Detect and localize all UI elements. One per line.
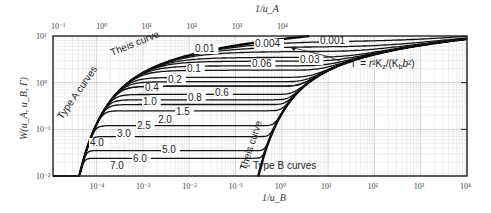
- top-axis-title: 1/u_A: [255, 3, 280, 14]
- curve-label: 1.0: [143, 96, 157, 107]
- curve-label: 2.5: [137, 120, 151, 131]
- curve-label: 0.1: [187, 63, 201, 74]
- curve-label: 4.0: [90, 137, 104, 148]
- type-a-label: Type A curves: [55, 64, 100, 121]
- curve-label: 3.0: [117, 128, 131, 139]
- bottom-tick-label: 10¹: [321, 182, 332, 191]
- bottom-tick-label: 10⁻⁴: [90, 182, 105, 191]
- bottom-tick-label: 10⁻²: [182, 182, 197, 191]
- y-tick-label: 10⁻²: [36, 172, 51, 181]
- bottom-tick-label: 10⁻¹: [229, 182, 244, 191]
- curve-label: 0.8: [188, 92, 202, 103]
- curve-label: 6.0: [133, 153, 147, 164]
- bottom-tick-label: 10⁰: [275, 182, 286, 191]
- curve-label: 0.01: [195, 43, 215, 54]
- curve-label: 1.5: [176, 106, 190, 117]
- type-b-label: Type B curves: [253, 160, 316, 171]
- curve-label: 0.6: [215, 87, 229, 98]
- curve-label: 0.4: [145, 82, 159, 93]
- bottom-tick-label: 10⁻³: [136, 182, 151, 191]
- curve-label: 0.004: [255, 38, 280, 49]
- y-tick-label: 10¹: [36, 32, 47, 41]
- bottom-tick-label: 10²: [367, 182, 378, 191]
- curve-label: 2.0: [158, 114, 172, 125]
- top-tick-label: 10³: [232, 22, 243, 31]
- gamma-definition: Γ = r²Kz/(Kbb²): [352, 58, 415, 70]
- top-tick-label: 10⁴: [277, 22, 288, 31]
- curve-label: 0.06: [252, 58, 272, 69]
- y-axis-title: W(u_A, u_B, Γ): [18, 76, 30, 140]
- top-tick-label: 10⁰: [96, 22, 107, 31]
- bottom-axis-title: 1/u_B: [262, 192, 286, 203]
- curve-label: 5.0: [162, 144, 176, 155]
- top-tick-label: 10⁻¹: [51, 22, 66, 31]
- bottom-tick-label: 10³: [414, 182, 425, 191]
- chart-canvas: 0.0010.0040.010.030.060.10.20.40.60.81.0…: [0, 0, 491, 213]
- y-tick-label: 10⁻¹: [36, 125, 51, 134]
- y-tick-label: 10⁰: [36, 79, 47, 88]
- curve-label: 7.0: [110, 160, 124, 171]
- bottom-tick-label: 10⁴: [460, 182, 471, 191]
- curve-label: 0.03: [300, 54, 320, 65]
- curve-label: 0.2: [168, 74, 182, 85]
- top-tick-label: 10²: [187, 22, 198, 31]
